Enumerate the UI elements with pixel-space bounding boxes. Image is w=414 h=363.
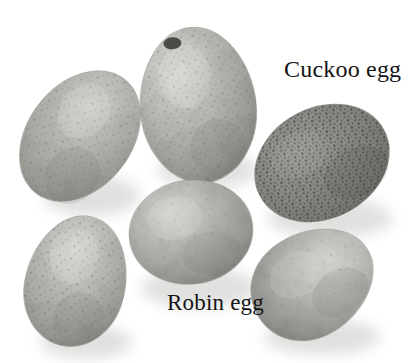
egg-photograph: Cuckoo egg Robin egg: [0, 0, 414, 363]
label-robin-egg: Robin egg: [167, 291, 264, 314]
label-cuckoo-egg: Cuckoo egg: [284, 57, 401, 81]
egg-left-upper: [0, 47, 165, 225]
